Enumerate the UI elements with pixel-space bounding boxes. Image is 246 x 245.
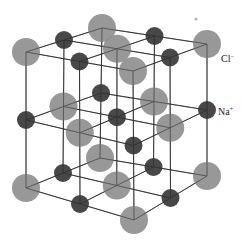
na-label-charge: +	[230, 106, 233, 112]
nacl-lattice-diagram: Cl− Na+	[0, 0, 246, 245]
cl-label-charge: −	[230, 53, 233, 59]
speck-dot	[194, 17, 197, 20]
lattice-bond-line	[170, 58, 171, 199]
na-label-text: Na	[218, 106, 230, 117]
na-ion-label: Na+	[218, 106, 233, 117]
cl-ion-label: Cl−	[221, 53, 234, 64]
lattice-svg	[0, 0, 246, 245]
